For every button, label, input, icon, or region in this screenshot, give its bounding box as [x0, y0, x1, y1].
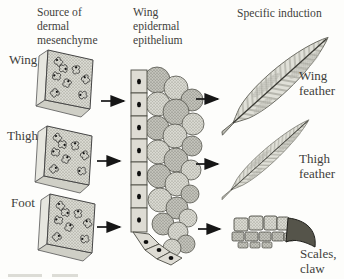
diagram-canvas: Source of dermal mesenchyme Wing epiderm… [0, 0, 344, 279]
cropped-caption-remnant [8, 274, 78, 277]
label-foot-source: Foot [11, 195, 35, 210]
header-source-of-dermal-mesenchyme: Source of dermal mesenchyme [37, 6, 98, 48]
header-wing-epidermal-epithelium: Wing epidermal epithelium [133, 6, 183, 48]
thigh-mesenchyme-illustration [35, 126, 92, 193]
wing-mesenchyme-illustration [36, 50, 93, 117]
label-wing-feather: Wing feather [299, 68, 335, 98]
label-thigh-source: Thigh [7, 128, 38, 143]
label-wing-source: Wing [9, 52, 37, 67]
label-thigh-feather: Thigh feather [299, 151, 335, 181]
scales-claw-illustration [232, 216, 315, 248]
foot-mesenchyme-illustration [38, 194, 95, 261]
label-scales-claw: Scales, claw [300, 246, 336, 276]
epithelium-illustration [131, 67, 204, 265]
header-specific-induction: Specific induction [237, 7, 322, 21]
